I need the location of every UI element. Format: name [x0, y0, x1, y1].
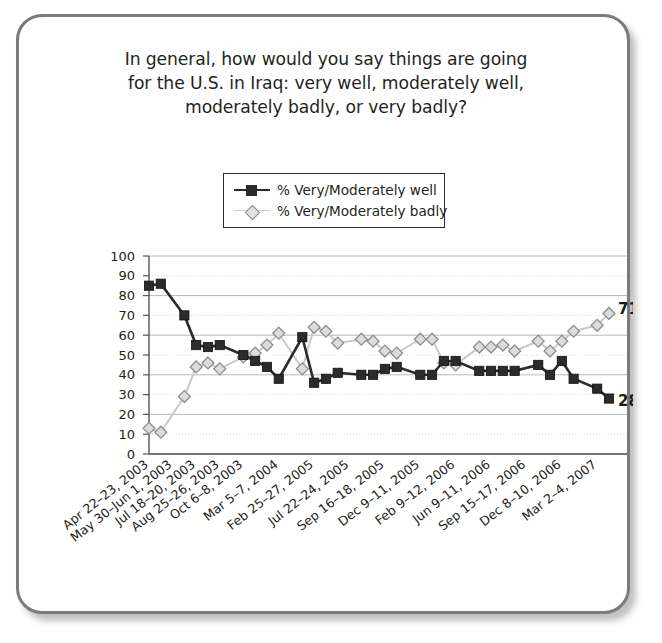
y-axis-tick-label: 50 — [118, 348, 135, 363]
data-point-well — [262, 362, 271, 371]
data-point-well — [380, 364, 389, 373]
data-point-well — [486, 366, 495, 375]
data-point-well — [274, 374, 283, 383]
data-point-badly — [155, 426, 167, 438]
chart-card: In general, how would you say things are… — [16, 14, 630, 614]
legend-label-well: % Very/Moderately well — [277, 182, 437, 198]
title-line-1: In general, how would you say things are… — [19, 47, 633, 71]
data-point-well — [215, 341, 224, 350]
data-point-well — [369, 370, 378, 379]
data-point-well — [475, 366, 484, 375]
data-point-well — [593, 384, 602, 393]
data-point-badly — [497, 339, 509, 351]
page-title: In general, how would you say things are… — [19, 47, 633, 119]
data-point-well — [439, 356, 448, 365]
data-point-well — [451, 356, 460, 365]
data-point-well — [557, 356, 566, 365]
gridlines — [149, 256, 627, 454]
data-point-badly — [143, 422, 155, 434]
title-line-3: moderately badly, or very badly? — [19, 95, 633, 119]
data-point-well — [604, 394, 613, 403]
data-point-badly — [308, 321, 320, 333]
data-point-well — [251, 356, 260, 365]
data-point-well — [192, 341, 201, 350]
data-point-well — [427, 370, 436, 379]
data-point-well — [310, 378, 319, 387]
legend-label-badly: % Very/Moderately badly — [277, 203, 447, 219]
data-point-well — [534, 360, 543, 369]
data-point-badly — [296, 363, 308, 375]
data-point-well — [392, 362, 401, 371]
data-point-well — [510, 366, 519, 375]
data-point-well — [156, 279, 165, 288]
y-axis-tick-label: 20 — [118, 407, 135, 422]
data-point-well — [321, 374, 330, 383]
y-axis-tick-label: 30 — [118, 387, 135, 402]
y-axis-tick-label: 10 — [118, 427, 135, 442]
y-axis-tick-label: 80 — [118, 288, 135, 303]
data-point-well — [357, 370, 366, 379]
data-point-badly — [391, 347, 403, 359]
y-axis-tick-label: 70 — [118, 308, 135, 323]
end-value-label: 28 — [618, 392, 633, 410]
data-point-well — [298, 333, 307, 342]
x-axis-category-labels: Apr 22–23, 2003May 30–Jun 1, 2003Jul 18–… — [59, 457, 599, 545]
y-axis-tick-label: 0 — [127, 447, 135, 462]
data-point-well — [545, 370, 554, 379]
legend-item-well: % Very/Moderately well — [232, 179, 436, 200]
y-axis-tick-labels: 0102030405060708090100 — [110, 249, 135, 462]
data-point-badly — [214, 363, 226, 375]
data-point-well — [144, 281, 153, 290]
y-axis-tick-label: 100 — [110, 249, 135, 264]
data-point-well — [416, 370, 425, 379]
y-axis-tick-label: 60 — [118, 328, 135, 343]
title-line-2: for the U.S. in Iraq: very well, moderat… — [19, 71, 633, 95]
data-point-badly — [202, 357, 214, 369]
legend-item-badly: % Very/Moderately badly — [232, 200, 436, 221]
line-chart-svg: 0102030405060708090100 7128 Apr 22–23, 2… — [19, 239, 633, 599]
chart-legend: % Very/Moderately well % Very/Moderately… — [223, 173, 445, 228]
legend-marker-open-diamond-icon — [232, 204, 272, 218]
data-point-well — [498, 366, 507, 375]
data-point-badly — [178, 391, 190, 403]
data-point-badly — [485, 341, 497, 353]
y-axis-tick-label: 40 — [118, 367, 135, 382]
legend-marker-filled-square-icon — [232, 183, 272, 197]
data-point-well — [203, 342, 212, 351]
plot-area: 0102030405060708090100 7128 Apr 22–23, 2… — [19, 239, 633, 599]
y-axis-tick-label: 90 — [118, 268, 135, 283]
data-point-well — [333, 368, 342, 377]
end-value-label: 71 — [618, 300, 633, 318]
data-point-well — [569, 374, 578, 383]
data-point-well — [180, 311, 189, 320]
data-point-well — [239, 350, 248, 359]
data-point-badly — [190, 361, 202, 373]
